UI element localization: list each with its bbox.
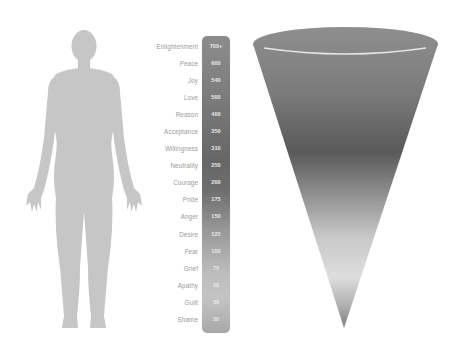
scale-label-anger: Anger <box>120 208 198 225</box>
inverted-cone-graphic <box>248 22 444 334</box>
scale-value-courage: 200 <box>202 174 230 191</box>
scale-label-neutrality: Neutrality <box>120 157 198 174</box>
scale-label-acceptance: Acceptance <box>120 123 198 140</box>
scale-value-guilt: 30 <box>202 294 230 311</box>
scale-label-enlightenment: Enlightenment <box>120 38 198 55</box>
scale-label-apathy: Apathy <box>120 277 198 294</box>
scale-label-pride: Pride <box>120 191 198 208</box>
scale-label-grief: Grief <box>120 260 198 277</box>
scale-value-enlightenment: 700+ <box>202 38 230 55</box>
scale-value-neutrality: 250 <box>202 157 230 174</box>
scale-value-peace: 600 <box>202 55 230 72</box>
scale-label-reason: Reason <box>120 106 198 123</box>
scale-value-desire: 125 <box>202 226 230 243</box>
scale-value-fear: 100 <box>202 243 230 260</box>
scale-value-willingness: 310 <box>202 140 230 157</box>
scale-label-willingness: Willingness <box>120 140 198 157</box>
scale-label-courage: Courage <box>120 174 198 191</box>
scale-label-love: Love <box>120 89 198 106</box>
scale-value-love: 500 <box>202 89 230 106</box>
scale-value-joy: 540 <box>202 72 230 89</box>
scale-value-shame: 20 <box>202 311 230 328</box>
scale-value-apathy: 50 <box>202 277 230 294</box>
consciousness-scale-bar: 700+ 600 540 500 400 350 310 250 200 175… <box>202 36 230 333</box>
scale-label-guilt: Guilt <box>120 294 198 311</box>
scale-label-peace: Peace <box>120 55 198 72</box>
scale-label-desire: Desire <box>120 226 198 243</box>
scale-value-grief: 75 <box>202 260 230 277</box>
scale-label-shame: Shame <box>120 311 198 328</box>
scale-value-reason: 400 <box>202 106 230 123</box>
scale-value-acceptance: 350 <box>202 123 230 140</box>
scale-label-fear: Fear <box>120 243 198 260</box>
scale-value-anger: 150 <box>202 208 230 225</box>
consciousness-scale-labels: Enlightenment Peace Joy Love Reason Acce… <box>120 38 198 328</box>
scale-label-joy: Joy <box>120 72 198 89</box>
scale-value-pride: 175 <box>202 191 230 208</box>
